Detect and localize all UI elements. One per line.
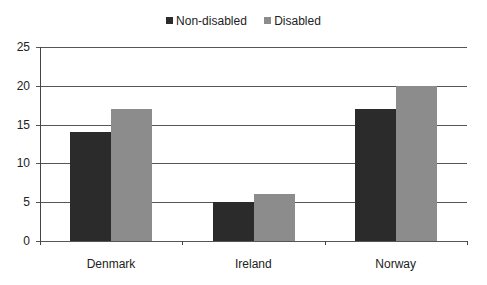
bar-norway-disabled xyxy=(396,86,437,241)
legend: Non-disabled Disabled xyxy=(0,13,487,28)
x-tick-label: Denmark xyxy=(40,257,182,271)
y-axis xyxy=(40,47,41,245)
legend-label: Non-disabled xyxy=(176,14,247,28)
y-tick-label: 5 xyxy=(0,196,30,208)
bar-denmark-non-disabled xyxy=(70,132,111,241)
bar-ireland-disabled xyxy=(254,194,295,241)
y-tick-label: 25 xyxy=(0,41,30,53)
legend-label: Disabled xyxy=(274,14,321,28)
x-tick xyxy=(467,241,468,245)
bar-denmark-disabled xyxy=(111,109,152,241)
bar-ireland-non-disabled xyxy=(213,202,254,241)
y-tick-label: 0 xyxy=(0,235,30,247)
y-tick-label: 15 xyxy=(0,119,30,131)
legend-swatch-non-disabled xyxy=(166,17,173,24)
legend-item-disabled: Disabled xyxy=(264,14,321,28)
gridline xyxy=(36,241,467,242)
y-tick-label: 20 xyxy=(0,80,30,92)
x-tick-label: Ireland xyxy=(182,257,324,271)
bar-norway-non-disabled xyxy=(355,109,396,241)
legend-swatch-disabled xyxy=(264,17,271,24)
x-tick-label: Norway xyxy=(325,257,467,271)
gridline xyxy=(36,47,467,48)
x-tick xyxy=(325,241,326,245)
x-tick xyxy=(182,241,183,245)
y-tick-label: 10 xyxy=(0,157,30,169)
legend-item-non-disabled: Non-disabled xyxy=(166,14,247,28)
